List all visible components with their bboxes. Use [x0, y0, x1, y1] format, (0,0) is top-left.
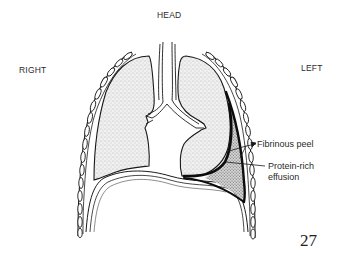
label-protein-rich-line2: effusion [268, 172, 314, 183]
chest-illustration [0, 0, 345, 268]
page-number: 27 [300, 231, 317, 251]
label-fibrinous-peel: Fibrinous peel [257, 139, 314, 150]
label-protein-rich-line1: Protein-rich [268, 161, 314, 172]
label-protein-rich-effusion: Protein-rich effusion [268, 161, 314, 182]
label-left: LEFT [301, 63, 323, 73]
label-right: RIGHT [19, 65, 46, 75]
right-lung [94, 56, 154, 180]
label-head: HEAD [157, 10, 181, 20]
diagram-canvas: HEAD RIGHT LEFT Fibrinous peel Protein-r… [0, 0, 345, 268]
